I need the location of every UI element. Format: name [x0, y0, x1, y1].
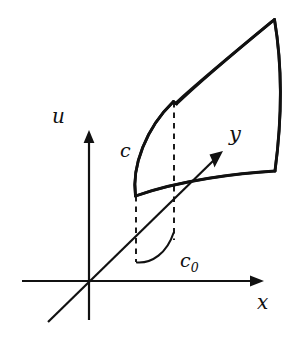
- curve-c-label: c: [120, 141, 131, 160]
- curve-c0-label: c0: [180, 251, 199, 274]
- curve-c0-subscript: 0: [191, 260, 199, 275]
- x-axis-label: x: [257, 292, 268, 312]
- x-axis: [22, 276, 264, 287]
- surface-bottom-edge: [136, 171, 276, 196]
- surface-right-edge: [275, 20, 281, 172]
- u-axis-label: u: [52, 106, 65, 126]
- y-axis-line: [48, 160, 214, 322]
- x-axis-arrowhead: [250, 276, 264, 287]
- math-figure: u c y c0 x: [0, 0, 296, 342]
- y-axis-label: y: [229, 124, 241, 145]
- u-axis: [84, 130, 95, 320]
- curved-surface-patch: [135, 20, 280, 197]
- u-axis-arrowhead: [84, 130, 95, 143]
- surface-left-edge: [135, 102, 174, 197]
- surface-corner-notch: [174, 102, 177, 105]
- angle-arc: [137, 233, 174, 263]
- figure-canvas: [0, 0, 296, 342]
- curve-c0-base: c: [180, 249, 191, 271]
- y-axis-arrowhead: [210, 151, 224, 168]
- surface-top-edge: [176, 20, 275, 104]
